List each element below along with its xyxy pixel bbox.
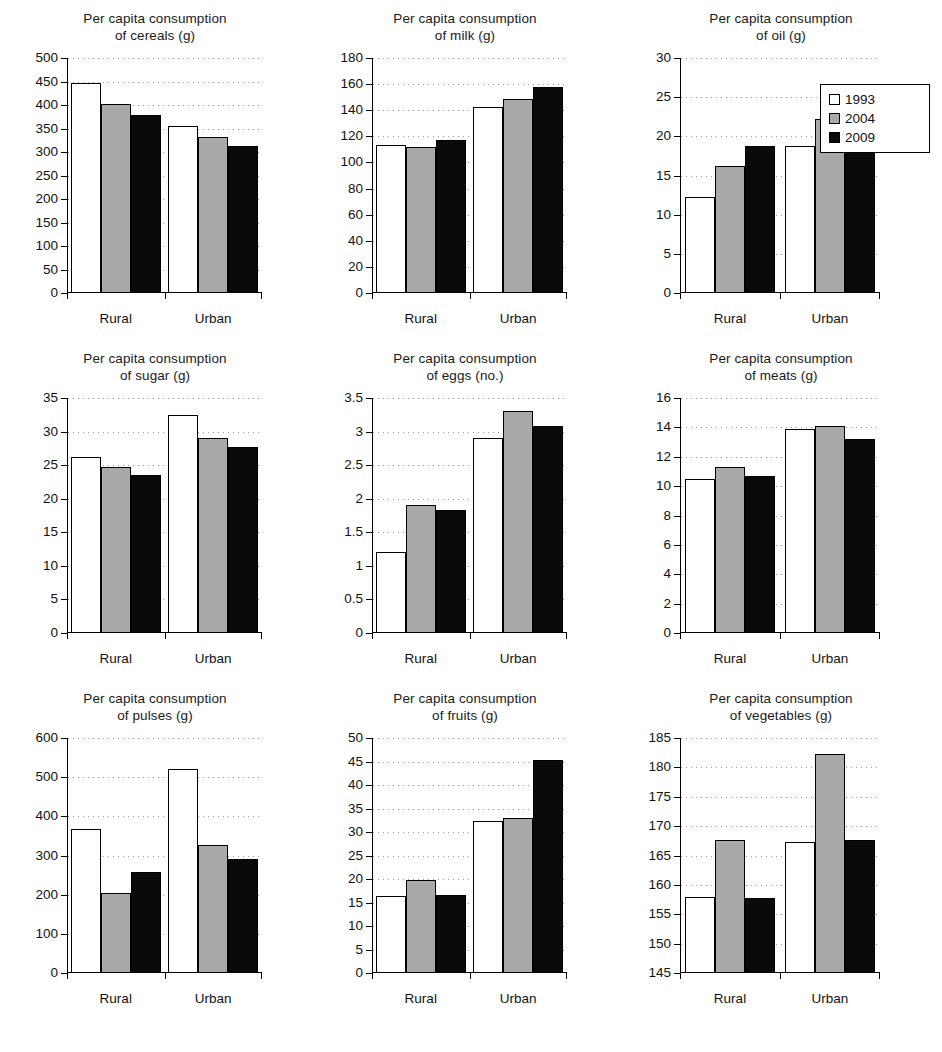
x-axis-label-rural: Rural: [714, 651, 746, 666]
y-axis-tick-label: 30: [656, 51, 671, 65]
chart-title-eggs: Per capita consumptionof eggs (no.): [310, 350, 620, 384]
bar-milk-rural-1993: [376, 145, 406, 293]
bar-pulses-urban-2009: [228, 859, 258, 973]
legend-label-1993: 1993: [845, 93, 875, 107]
bar-vegetables-rural-2009: [745, 898, 775, 973]
y-axis-tick-label: 20: [348, 872, 363, 886]
y-axis-tick-label: 180: [648, 761, 671, 775]
bar-milk-urban-1993: [473, 107, 503, 293]
x-axis-end-tick: [67, 973, 68, 979]
y-axis-tick-label: 160: [648, 878, 671, 892]
y-axis-tick-label: 2.5: [344, 458, 363, 472]
bar-milk-rural-2004: [406, 147, 436, 293]
plot-area-sugar: 05101520253035: [67, 398, 262, 633]
y-axis-tick-label: 180: [340, 51, 363, 65]
chart-panel-milk: Per capita consumptionof milk (g)RuralUr…: [310, 0, 620, 340]
chart-panel-meats: Per capita consumptionof meats (g)RuralU…: [620, 340, 942, 680]
bar-sugar-urban-2004: [198, 438, 228, 633]
bar-cereals-urban-2009: [228, 146, 258, 293]
bar-cereals-rural-2009: [131, 115, 161, 293]
chart-panel-fruits: Per capita consumptionof fruits (g)Rural…: [310, 680, 620, 1016]
chart-title-line1: Per capita consumption: [310, 10, 620, 27]
bar-sugar-urban-1993: [168, 415, 198, 633]
y-axis-tick-label: 145: [648, 966, 671, 980]
chart-title-sugar: Per capita consumptionof sugar (g): [0, 350, 310, 384]
gridline: [681, 797, 880, 798]
bar-pulses-rural-1993: [71, 829, 101, 973]
figure-caption-text: [96, 1040, 886, 1045]
bar-eggs-urban-1993: [473, 438, 503, 633]
legend-swatch-2004: [829, 113, 840, 124]
legend-entry-2009: 2009: [829, 128, 923, 147]
x-axis-end-tick: [372, 293, 373, 299]
bar-cereals-rural-2004: [101, 104, 131, 293]
y-axis-line: [372, 738, 373, 973]
x-axis-end-tick: [680, 973, 681, 979]
x-axis-end-tick: [261, 633, 262, 639]
x-axis-end-tick: [67, 293, 68, 299]
x-axis-end-tick: [680, 633, 681, 639]
x-axis-label-rural: Rural: [405, 991, 437, 1006]
bar-pulses-rural-2004: [101, 893, 131, 973]
y-axis-tick-label: 300: [35, 145, 58, 159]
y-axis-tick-label: 15: [656, 169, 671, 183]
x-axis-mid-tick: [165, 633, 166, 639]
chart-title-line1: Per capita consumption: [0, 350, 310, 367]
bar-cereals-rural-1993: [71, 83, 101, 293]
y-axis-tick-label: 3.5: [344, 391, 363, 405]
bar-fruits-urban-2004: [503, 818, 533, 973]
bar-sugar-rural-2004: [101, 467, 131, 633]
y-axis-tick-label: 170: [648, 819, 671, 833]
chart-panel-pulses: Per capita consumptionof pulses (g)Rural…: [0, 680, 310, 1016]
gridline: [68, 738, 262, 739]
y-axis-tick-label: 0: [355, 286, 363, 300]
y-axis-tick-label: 5: [50, 593, 58, 607]
y-axis-tick-label: 600: [35, 731, 58, 745]
bar-cereals-urban-2004: [198, 137, 228, 293]
bar-eggs-rural-1993: [376, 552, 406, 633]
chart-title-line2: of vegetables (g): [620, 707, 942, 724]
x-axis-end-tick: [879, 633, 880, 639]
x-axis-end-tick: [261, 293, 262, 299]
y-axis-tick-label: 250: [35, 169, 58, 183]
y-axis-tick-label: 350: [35, 122, 58, 136]
y-axis-tick-label: 185: [648, 731, 671, 745]
chart-title-pulses: Per capita consumptionof pulses (g): [0, 690, 310, 724]
y-axis-tick-label: 0: [663, 626, 671, 640]
chart-title-line1: Per capita consumption: [620, 690, 942, 707]
y-axis-tick-label: 25: [43, 458, 58, 472]
y-axis-line: [67, 58, 68, 293]
y-axis-tick-label: 500: [35, 51, 58, 65]
x-axis-label-rural: Rural: [405, 651, 437, 666]
x-axis-mid-tick: [470, 973, 471, 979]
y-axis-tick-label: 40: [348, 234, 363, 248]
gridline: [681, 427, 880, 428]
y-axis-tick-label: 0.5: [344, 593, 363, 607]
y-axis-tick-label: 2: [663, 597, 671, 611]
chart-title-line2: of oil (g): [620, 27, 942, 44]
x-axis-label-urban: Urban: [195, 311, 232, 326]
bar-sugar-urban-2009: [228, 447, 258, 633]
x-axis-end-tick: [261, 973, 262, 979]
legend-swatch-1993: [829, 94, 840, 105]
bar-meats-urban-1993: [785, 429, 815, 633]
plot-area-eggs: 00.511.522.533.5: [372, 398, 567, 633]
y-axis-tick-label: 8: [663, 509, 671, 523]
y-axis-tick-label: 0: [355, 966, 363, 980]
y-axis-tick-label: 2: [355, 492, 363, 506]
chart-panel-oil: Per capita consumptionof oil (g)RuralUrb…: [620, 0, 942, 340]
y-axis-tick-label: 100: [340, 156, 363, 170]
chart-title-line1: Per capita consumption: [620, 10, 942, 27]
y-axis-line: [67, 398, 68, 633]
chart-title-line2: of milk (g): [310, 27, 620, 44]
gridline: [68, 777, 262, 778]
chart-title-cereals: Per capita consumptionof cereals (g): [0, 10, 310, 44]
y-axis-tick-label: 500: [35, 770, 58, 784]
x-axis-end-tick: [67, 633, 68, 639]
x-axis-label-rural: Rural: [100, 311, 132, 326]
bar-fruits-rural-2009: [436, 895, 466, 973]
y-axis-tick-label: 150: [35, 216, 58, 230]
x-axis-mid-tick: [470, 293, 471, 299]
y-axis-tick-label: 35: [43, 391, 58, 405]
x-axis-label-rural: Rural: [714, 311, 746, 326]
